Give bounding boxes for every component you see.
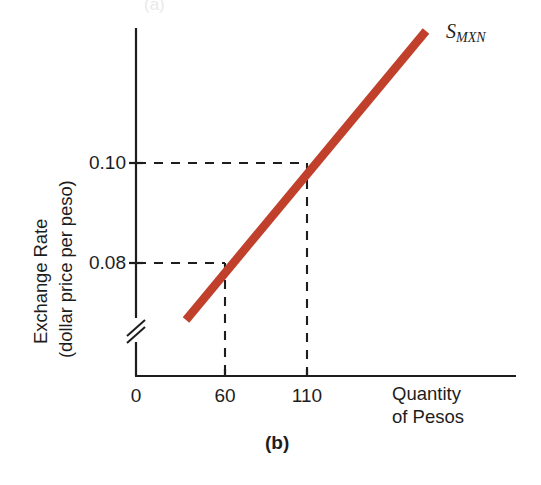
panel-caption: (b): [265, 432, 289, 454]
y-axis-title: Exchange Rate (dollar price per peso): [8, 96, 80, 356]
curve-label-main: S: [446, 20, 456, 42]
x-tick-label-60: 60: [195, 385, 255, 407]
x-axis-title-line1: Quantity: [392, 382, 464, 405]
x-tick-label-110: 110: [277, 385, 337, 407]
y-axis-title-line1: Exchange Rate: [30, 219, 52, 344]
top-edge-remnant: (a): [144, 0, 165, 15]
x-axis-title: Quantity of Pesos: [392, 382, 464, 428]
figure-panel-b: Exchange Rate (dollar price per peso) 0.…: [0, 0, 541, 485]
supply-curve-smxn: [186, 31, 426, 320]
curve-label-subscript: MXN: [456, 30, 486, 45]
guide-lines-60-008: [137, 263, 225, 376]
y-tick-label-0-10: 0.10: [52, 152, 126, 174]
x-axis-title-line2: of Pesos: [392, 405, 464, 428]
y-tick-label-0-08: 0.08: [52, 252, 126, 274]
x-tick-label-0: 0: [106, 385, 166, 407]
curve-label-smxn: SMXN: [446, 20, 486, 46]
guide-lines-110-010: [137, 163, 307, 376]
y-axis-break-icon: [127, 320, 145, 343]
